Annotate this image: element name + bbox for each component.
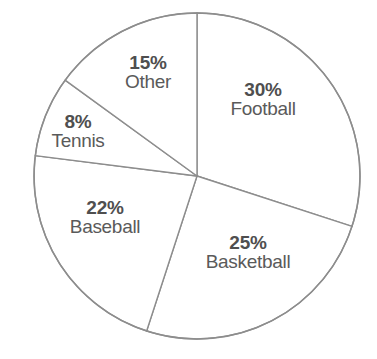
pie-slices-group bbox=[34, 13, 360, 339]
pie-chart-svg bbox=[0, 0, 377, 359]
pie-chart: 30%Football25%Basketball22%Baseball8%Ten… bbox=[0, 0, 377, 359]
